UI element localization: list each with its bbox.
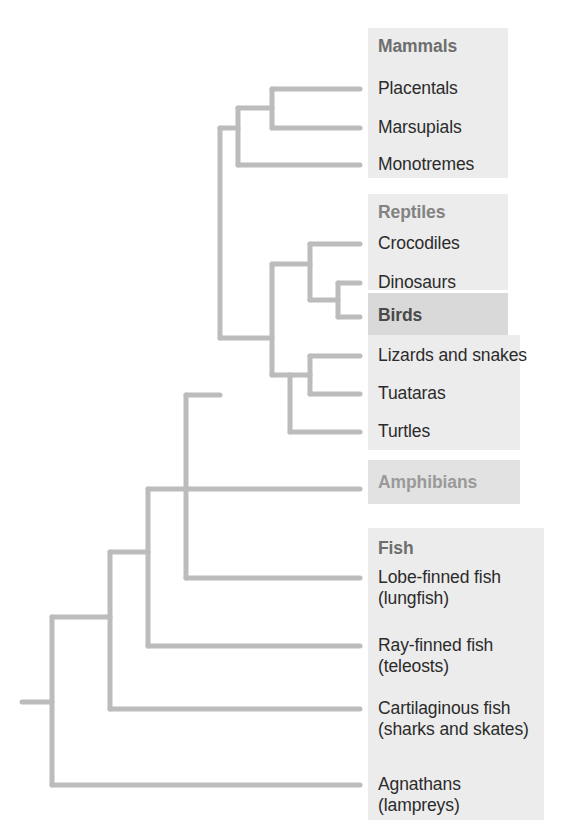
group-label-mammals: Mammals xyxy=(378,36,457,56)
leaf-label-tuataras: Tuataras xyxy=(378,383,446,403)
leaf-label-turtles: Turtles xyxy=(378,421,430,441)
group-label-fish: Fish xyxy=(378,538,414,558)
leaf-sub-cartilaginous-fish: (sharks and skates) xyxy=(378,719,529,739)
phylogenetic-tree-diagram: Mammals Placentals Marsupials Monotremes… xyxy=(0,0,578,837)
leaf-label-cartilaginous-fish: Cartilaginous fish xyxy=(378,698,510,718)
leaf-label-crocodiles: Crocodiles xyxy=(378,233,460,253)
leaf-label-ray-finned-fish: Ray-finned fish xyxy=(378,635,493,655)
group-label-birds: Birds xyxy=(378,305,422,325)
leaf-sub-ray-finned-fish: (teleosts) xyxy=(378,656,449,676)
group-label-amphibians: Amphibians xyxy=(378,472,477,492)
label-layer: Mammals Placentals Marsupials Monotremes… xyxy=(0,0,578,837)
leaf-label-agnathans: Agnathans xyxy=(378,774,461,794)
leaf-label-placentals: Placentals xyxy=(378,78,458,98)
leaf-sub-agnathans: (lampreys) xyxy=(378,795,460,815)
group-label-reptiles: Reptiles xyxy=(378,202,445,222)
leaf-label-lizards-and-snakes: Lizards and snakes xyxy=(378,345,527,365)
leaf-label-dinosaurs: Dinosaurs xyxy=(378,272,456,292)
leaf-label-lobe-finned-fish: Lobe-finned fish xyxy=(378,567,501,587)
leaf-label-monotremes: Monotremes xyxy=(378,154,474,174)
leaf-sub-lobe-finned-fish: (lungfish) xyxy=(378,588,449,608)
leaf-label-marsupials: Marsupials xyxy=(378,117,462,137)
